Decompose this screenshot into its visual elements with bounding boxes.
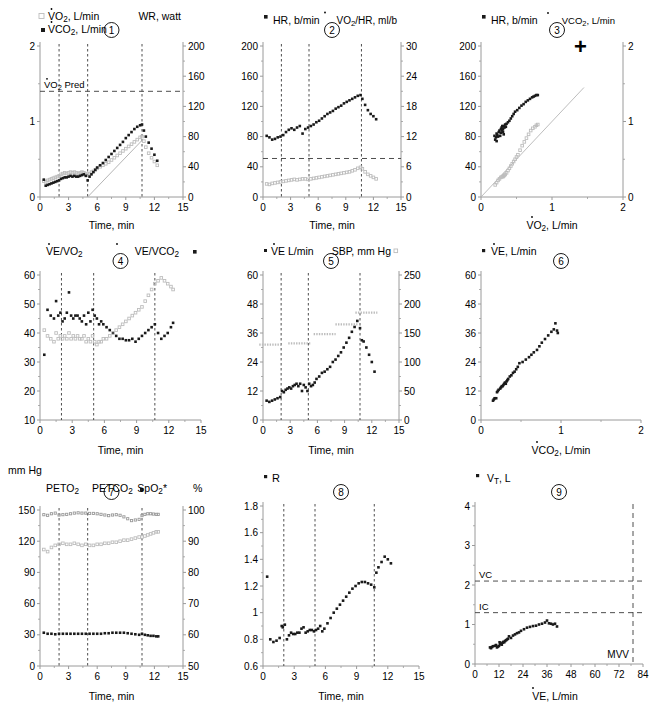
data-point	[65, 632, 68, 635]
panel-2-chart: 036912150408012016020006121824302HR, b/m…	[223, 0, 441, 235]
y2-tick-label: 1	[628, 116, 634, 127]
overdot-glyph	[324, 12, 326, 14]
data-point	[536, 349, 539, 352]
x-tick-label: 3	[291, 671, 297, 682]
reference-line-label: VC	[479, 569, 492, 580]
data-point	[375, 118, 378, 121]
data-point	[369, 113, 372, 116]
data-point	[89, 320, 92, 323]
data-point	[54, 633, 57, 636]
data-point	[65, 543, 68, 546]
data-point	[348, 99, 351, 102]
panel-6: 012012243648606VE, L/minVCO2, L/min	[441, 235, 663, 460]
data-point	[301, 178, 304, 181]
data-point	[166, 282, 169, 285]
data-point	[544, 338, 547, 341]
overdot-glyph	[46, 78, 48, 80]
data-point	[387, 558, 390, 561]
y-tick-label: 1	[29, 116, 35, 127]
data-point	[279, 396, 282, 399]
data-point	[77, 512, 79, 514]
data-point	[529, 626, 532, 629]
data-point	[339, 603, 342, 606]
legend-marker-hr	[482, 15, 486, 19]
y-tick-label: 1	[464, 619, 470, 630]
data-point	[66, 311, 69, 314]
data-point	[66, 513, 68, 515]
data-point	[110, 153, 113, 156]
data-point	[92, 544, 95, 547]
data-point	[541, 622, 544, 625]
data-point	[332, 110, 335, 113]
x-tick-label: 9	[354, 671, 360, 682]
x-tick-label: 12	[368, 202, 380, 213]
y-tick-label: 200	[241, 41, 258, 52]
x-tick-label: 6	[94, 671, 100, 682]
data-point	[53, 317, 56, 320]
data-point	[377, 566, 380, 569]
data-point	[107, 632, 110, 635]
data-point	[62, 542, 65, 545]
data-point	[119, 514, 121, 516]
data-point	[275, 639, 278, 642]
data-point	[49, 338, 52, 341]
x-tick-label: 12	[149, 671, 161, 682]
y-tick-label: 12	[247, 386, 259, 397]
data-point	[131, 314, 134, 317]
overdot-glyph	[51, 8, 53, 10]
series-vo2-hr-ml-b	[265, 166, 377, 186]
data-point	[89, 340, 92, 343]
data-point	[528, 356, 531, 359]
data-point	[134, 633, 137, 636]
data-point	[104, 159, 107, 162]
panel-1: 0369121501204080120160200VO2 Pred1VO2, L…	[0, 0, 223, 235]
data-point	[147, 294, 150, 297]
y-tick-label: 60	[247, 270, 259, 281]
data-point	[87, 311, 90, 314]
data-point	[63, 335, 66, 338]
data-point	[154, 323, 157, 326]
data-point	[282, 180, 285, 183]
panel-9: 01224364860728401234VCICMVV9VT, LVE, L/m…	[441, 460, 663, 706]
data-point	[507, 378, 510, 381]
legend-marker-r	[264, 475, 267, 478]
x-tick-label: 12	[163, 425, 175, 436]
data-point	[523, 628, 526, 631]
data-point	[495, 397, 498, 400]
panel4-y-title: VE/VO2	[46, 245, 83, 259]
x-tick-label: 12	[382, 671, 394, 682]
data-point	[88, 512, 90, 514]
data-point	[43, 548, 46, 551]
data-point	[125, 320, 128, 323]
data-point	[326, 113, 329, 116]
data-point	[361, 98, 364, 101]
data-point	[102, 338, 105, 341]
data-point	[271, 399, 274, 402]
data-point	[345, 595, 348, 598]
panel-7-chart: 03691215030609012015050607080901007mm Hg…	[0, 460, 223, 706]
data-point	[530, 353, 533, 356]
data-point	[53, 340, 56, 343]
x-tick-label: 15	[393, 425, 405, 436]
data-point	[368, 353, 371, 356]
x-tick-label: 6	[94, 202, 100, 213]
data-point	[123, 631, 126, 634]
data-point	[43, 329, 46, 332]
y-tick-label: 30	[24, 629, 36, 640]
data-point	[334, 107, 337, 110]
data-point	[138, 518, 140, 520]
data-point	[134, 519, 136, 521]
data-point	[517, 153, 520, 156]
data-point	[145, 146, 148, 149]
y-tick-label: 20	[24, 386, 36, 397]
data-point	[508, 119, 511, 122]
data-point	[147, 152, 150, 155]
data-point	[323, 627, 326, 630]
data-point	[302, 626, 305, 629]
data-point	[137, 338, 140, 341]
data-point	[127, 518, 129, 520]
overdot-glyph	[532, 687, 534, 689]
data-point	[326, 622, 329, 625]
series-ve-vo2	[43, 291, 174, 356]
y2-tick-label: 50	[404, 386, 416, 397]
